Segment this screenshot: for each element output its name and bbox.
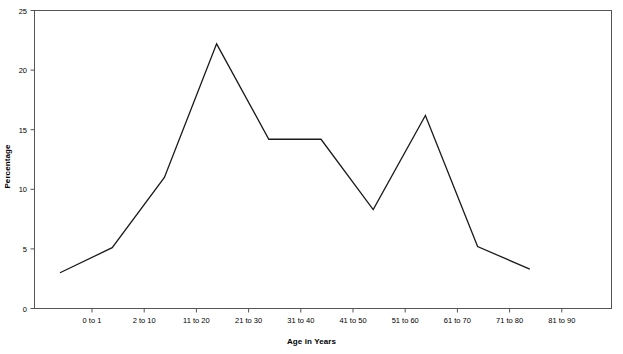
y-tick-label: 20 [19, 66, 27, 75]
x-tick-label: 51 to 60 [392, 316, 419, 325]
x-tick-label: 21 to 30 [235, 316, 262, 325]
x-tick-label: 81 to 90 [548, 316, 575, 325]
x-axis-title: Age in Years [0, 337, 623, 346]
plot-frame [35, 11, 612, 309]
x-tick-label: 71 to 80 [496, 316, 523, 325]
y-tick-label: 0 [23, 304, 27, 313]
line-chart: 0 to 12 to 1011 to 2021 to 3031 to 4041 … [0, 0, 623, 354]
x-tick-label: 61 to 70 [444, 316, 471, 325]
y-axis-ticks [31, 11, 35, 309]
x-tick-label: 31 to 40 [287, 316, 314, 325]
x-tick-label: 11 to 20 [183, 316, 210, 325]
y-tick-label: 10 [19, 185, 27, 194]
y-axis-title: Percentage [3, 127, 12, 207]
x-tick-label: 41 to 50 [339, 316, 366, 325]
y-tick-label: 25 [19, 6, 27, 15]
x-tick-label: 2 to 10 [133, 316, 156, 325]
x-axis-ticks [92, 309, 562, 313]
y-tick-label: 15 [19, 125, 27, 134]
y-tick-label: 5 [23, 244, 27, 253]
chart-canvas [0, 0, 623, 354]
plot-area-border [35, 11, 612, 309]
x-tick-label: 0 to 1 [83, 316, 102, 325]
